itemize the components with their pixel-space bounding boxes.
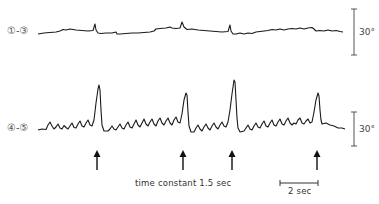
arrow-up-icon — [94, 150, 101, 170]
time-constant-label: time constant 1.5 sec — [135, 178, 231, 188]
trace-bottom — [38, 80, 345, 132]
arrow-up-icon — [314, 150, 321, 170]
scale-bar-top — [351, 9, 357, 55]
trace-label-top: ①-③ — [7, 25, 29, 36]
stimulus-arrows — [94, 150, 321, 170]
arrow-up-icon — [180, 150, 187, 170]
scale-label-top: 30° — [359, 27, 375, 37]
trace-label-bottom: ④-⑤ — [7, 122, 29, 133]
recording-figure — [0, 0, 379, 204]
arrow-up-icon — [229, 150, 236, 170]
scale-label-bottom: 30° — [359, 124, 375, 134]
time-bar-label: 2 sec — [288, 186, 311, 196]
trace-top — [38, 22, 343, 34]
scale-bar-bottom — [351, 112, 357, 146]
